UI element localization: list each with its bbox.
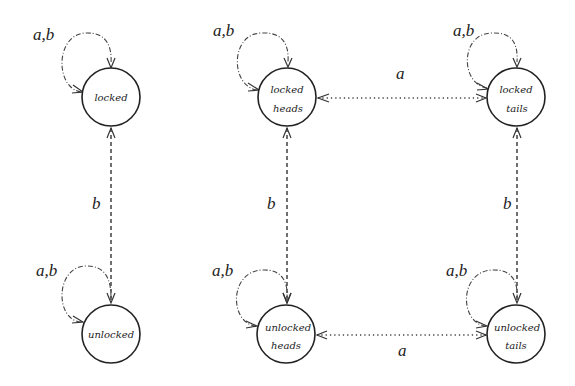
- arrowhead-icon: [246, 321, 257, 328]
- state-label: heads: [273, 103, 303, 114]
- state-unlocked-tails: [487, 305, 545, 363]
- loop-label: a,b: [33, 25, 54, 44]
- state-label: unlocked: [88, 329, 134, 340]
- loop-label: a,b: [213, 21, 234, 40]
- state-unlocked-heads: [257, 305, 315, 363]
- loop-label: a,b: [212, 261, 233, 280]
- state-label: tails: [506, 103, 528, 114]
- state-label: tails: [505, 340, 527, 351]
- loop-label: a,b: [446, 261, 467, 280]
- state-locked-heads: [258, 68, 316, 126]
- state-diagram: a,b locked b a,b unlocked a,b locked hea…: [0, 0, 575, 386]
- arrowhead-icon: [477, 83, 488, 90]
- state-label: locked: [94, 92, 127, 103]
- loop-label: a,b: [36, 261, 57, 280]
- state-locked-tails: [487, 68, 545, 126]
- transition-label: a: [398, 341, 407, 360]
- transition-label: b: [267, 194, 276, 213]
- arrowhead-icon: [72, 85, 83, 93]
- arrowhead-icon: [476, 321, 487, 328]
- transition-label: b: [503, 194, 512, 213]
- transition-label: b: [92, 194, 101, 213]
- arrowhead-icon: [248, 83, 259, 91]
- state-label: heads: [271, 340, 301, 351]
- state-label: locked: [499, 84, 532, 95]
- transition-label: a: [396, 64, 405, 83]
- state-label: unlocked: [265, 322, 311, 333]
- state-label: locked: [270, 84, 303, 95]
- loop-label: a,b: [453, 21, 474, 40]
- state-label: unlocked: [494, 322, 540, 333]
